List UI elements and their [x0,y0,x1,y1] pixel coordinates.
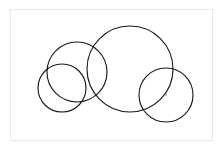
center-dot-marker-marker-1 [165,94,167,96]
markers-group [165,94,167,96]
circles-diagram-canvas [0,0,222,149]
figure-border [11,10,213,141]
figure-container: Overlapping circles diagram [0,0,222,149]
